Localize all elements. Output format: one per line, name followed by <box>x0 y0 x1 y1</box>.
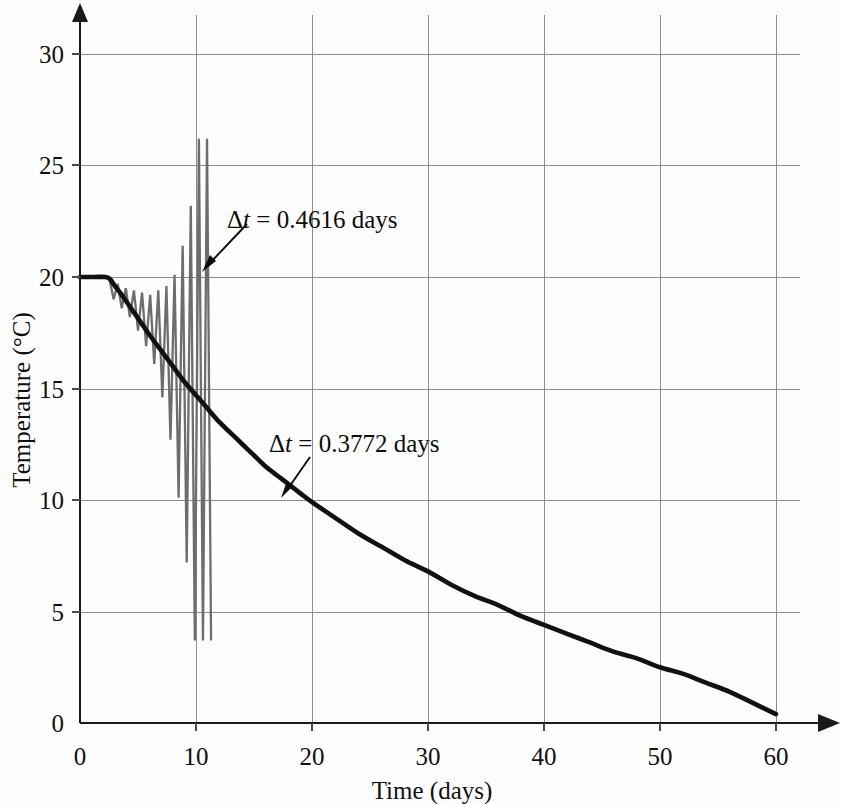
y-tick-label-20: 20 <box>39 264 64 291</box>
y-tick-label-0: 0 <box>52 710 65 737</box>
annotation-label-stable: Δt = 0.3772 days <box>269 431 439 456</box>
temperature-decay-chart: 30 25 20 15 10 5 0 0 10 20 30 40 50 60 T… <box>0 0 843 804</box>
x-tick-label-50: 50 <box>648 743 673 770</box>
y-tick-label-30: 30 <box>39 41 64 68</box>
x-tick-label-40: 40 <box>532 743 557 770</box>
y-tick-label-10: 10 <box>39 487 64 514</box>
x-axis-arrowhead <box>818 714 840 732</box>
x-axis-tick-labels: 0 10 20 30 40 50 60 <box>74 743 789 770</box>
y-tick-label-25: 25 <box>39 152 64 179</box>
grid-vertical-lines <box>196 15 776 723</box>
x-tick-label-30: 30 <box>416 743 441 770</box>
y-axis-arrowhead <box>72 3 88 22</box>
y-axis-tick-labels: 30 25 20 15 10 5 0 <box>39 41 64 737</box>
x-axis-title: Time (days) <box>372 777 493 804</box>
y-axis <box>72 3 88 723</box>
x-axis <box>80 714 840 732</box>
y-tick-label-5: 5 <box>52 599 65 626</box>
y-axis-title: Temperature (°C) <box>8 312 36 488</box>
x-tick-label-0: 0 <box>74 743 87 770</box>
figure-container: 30 25 20 15 10 5 0 0 10 20 30 40 50 60 T… <box>0 0 843 804</box>
y-tick-label-15: 15 <box>39 376 64 403</box>
x-tick-label-60: 60 <box>764 743 789 770</box>
x-tick-label-20: 20 <box>300 743 325 770</box>
x-tick-label-10: 10 <box>184 743 209 770</box>
annotation-label-unstable: Δt = 0.4616 days <box>227 207 397 232</box>
